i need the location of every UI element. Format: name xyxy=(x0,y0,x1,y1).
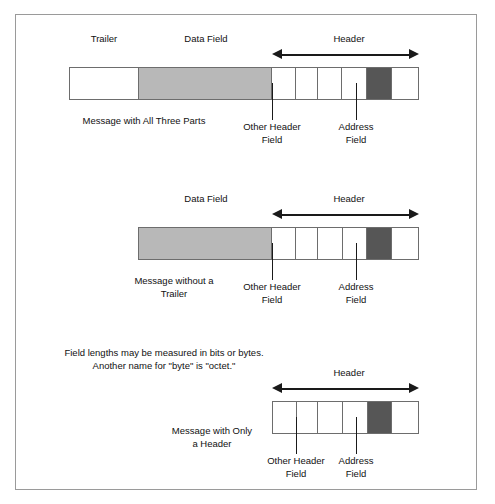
segment-data-field xyxy=(139,228,272,259)
segment-trailer xyxy=(70,68,139,99)
segment-header-field-6 xyxy=(392,402,418,433)
callout-other-header-field: Other Header Field xyxy=(243,281,301,306)
leader-other-header-field xyxy=(272,83,273,120)
segment-address-field xyxy=(367,228,392,259)
arrow-shaft xyxy=(280,388,411,390)
segment-header-field-3 xyxy=(318,228,343,259)
header-span-arrow xyxy=(272,49,419,60)
leader-other-header-field xyxy=(296,417,297,454)
message-bar xyxy=(138,227,419,260)
segment-header-field-3 xyxy=(318,68,343,99)
leader-address-field xyxy=(356,417,357,454)
figure-note: Field lengths may be measured in bits or… xyxy=(64,347,263,372)
label-header: Header xyxy=(333,33,364,45)
callout-address-field: Address Field xyxy=(339,455,374,480)
segment-other-header-field xyxy=(297,402,319,433)
segment-address-field xyxy=(367,68,392,99)
label-header: Header xyxy=(333,367,364,379)
callout-other-header-field: Other Header Field xyxy=(267,455,325,480)
segment-header-field-1 xyxy=(272,228,296,259)
label-data-field: Data Field xyxy=(184,193,227,205)
label-data-field: Data Field xyxy=(184,33,227,45)
segment-address-field xyxy=(368,402,393,433)
caption-message-all-three-parts: Message with All Three Parts xyxy=(83,115,206,127)
segment-header-field-1 xyxy=(273,402,297,433)
segment-header-field-6 xyxy=(392,228,418,259)
label-header: Header xyxy=(333,193,364,205)
segment-other-header-field xyxy=(296,228,318,259)
message-bar xyxy=(272,401,419,434)
message-bar xyxy=(69,67,419,100)
arrow-right-head xyxy=(409,209,419,219)
leader-other-header-field xyxy=(272,243,273,280)
diagram-message-only-header: Field lengths may be measured in bits or… xyxy=(16,339,478,489)
callout-other-header-field: Other Header Field xyxy=(243,121,301,146)
label-trailer: Trailer xyxy=(91,33,118,45)
segment-header-field-4 xyxy=(343,228,368,259)
caption-message-only-header: Message with Only a Header xyxy=(172,425,252,450)
segment-header-field-1 xyxy=(272,68,296,99)
arrow-shaft xyxy=(280,214,411,216)
figure-frame: Trailer Data Field Header Other Header F… xyxy=(15,14,477,490)
segment-header-field-4 xyxy=(342,68,367,99)
caption-message-without-trailer: Message without a Trailer xyxy=(134,275,213,300)
segment-data-field xyxy=(139,68,272,99)
callout-address-field: Address Field xyxy=(339,121,374,146)
callout-address-field: Address Field xyxy=(339,281,374,306)
arrow-right-head xyxy=(409,383,419,393)
header-span-arrow xyxy=(272,383,419,394)
diagram-message-without-trailer: Data Field Header Other Header Field Add… xyxy=(16,175,478,315)
arrow-shaft xyxy=(280,54,411,56)
segment-other-header-field xyxy=(296,68,318,99)
leader-address-field xyxy=(356,243,357,280)
segment-header-field-6 xyxy=(392,68,418,99)
segment-header-field-3 xyxy=(318,402,343,433)
leader-address-field xyxy=(356,83,357,120)
arrow-right-head xyxy=(409,49,419,59)
header-span-arrow xyxy=(272,209,419,220)
diagram-message-all-three-parts: Trailer Data Field Header Other Header F… xyxy=(16,15,478,155)
